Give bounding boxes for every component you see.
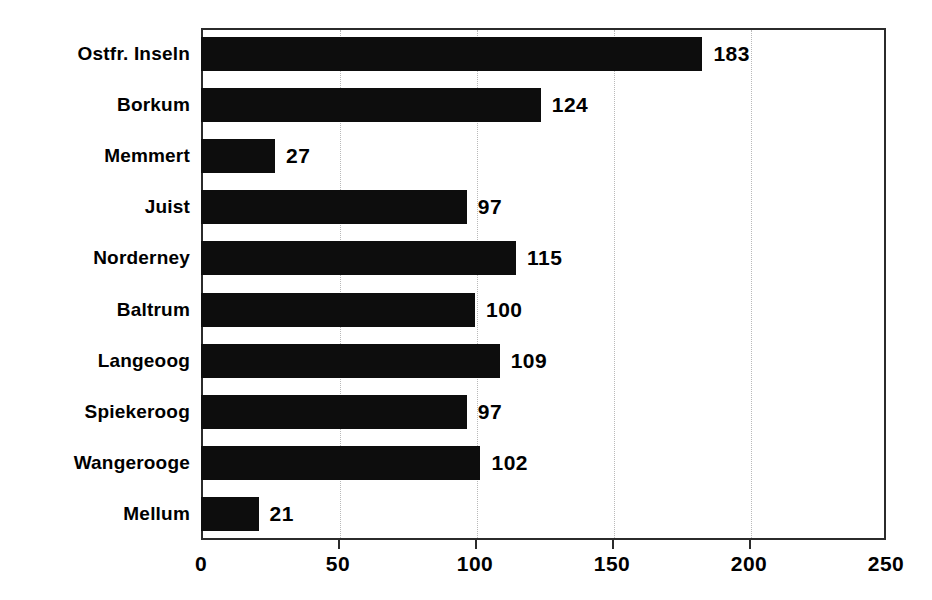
bar-value-label: 97 [478, 195, 502, 219]
category-label: Ostfr. Inseln [0, 37, 190, 71]
bar[interactable] [201, 395, 467, 429]
bar-row: 97 [201, 190, 886, 224]
bar-value-label: 115 [527, 246, 562, 270]
x-tick-mark-200 [749, 540, 751, 549]
bar-row: 21 [201, 497, 886, 531]
bar[interactable] [201, 190, 467, 224]
bar-row: 97 [201, 395, 886, 429]
x-tick-label: 100 [457, 552, 494, 576]
bar-row: 124 [201, 88, 886, 122]
bar-value-label: 102 [491, 451, 528, 475]
bar[interactable] [201, 88, 541, 122]
bar-value-label: 21 [270, 502, 294, 526]
x-tick-label: 150 [594, 552, 631, 576]
bar-row: 102 [201, 446, 886, 480]
bar-value-label: 100 [486, 298, 523, 322]
bar[interactable] [201, 139, 275, 173]
bar-row: 183 [201, 37, 886, 71]
category-label: Baltrum [0, 293, 190, 327]
bar-value-label: 183 [713, 42, 750, 66]
bar[interactable] [201, 344, 500, 378]
bar-chart: Ostfr. InselnBorkumMemmertJuistNorderney… [0, 0, 932, 600]
x-tick-label: 250 [868, 552, 905, 576]
x-tick-label: 50 [326, 552, 350, 576]
category-label: Langeoog [0, 344, 190, 378]
category-label: Spiekeroog [0, 395, 190, 429]
x-tick-mark-100 [475, 540, 477, 549]
x-tick-label: 200 [731, 552, 768, 576]
bar[interactable] [201, 293, 475, 327]
bar-value-label: 109 [511, 349, 548, 373]
category-label: Wangerooge [0, 446, 190, 480]
bar[interactable] [201, 37, 702, 71]
bar[interactable] [201, 241, 516, 275]
category-label: Juist [0, 190, 190, 224]
bars-layer: 18312427971151001099710221 [201, 28, 886, 540]
bar-value-label: 124 [552, 93, 589, 117]
x-tick-mark-50 [338, 540, 340, 549]
bar-row: 27 [201, 139, 886, 173]
category-axis-labels: Ostfr. InselnBorkumMemmertJuistNorderney… [0, 28, 190, 540]
category-label: Borkum [0, 88, 190, 122]
category-label: Mellum [0, 497, 190, 531]
bar-row: 109 [201, 344, 886, 378]
x-tick-mark-150 [612, 540, 614, 549]
bar-value-label: 27 [286, 144, 310, 168]
bar-row: 100 [201, 293, 886, 327]
bar[interactable] [201, 497, 259, 531]
x-tick-label: 0 [195, 552, 207, 576]
category-label: Memmert [0, 139, 190, 173]
bar[interactable] [201, 446, 480, 480]
bar-value-label: 97 [478, 400, 502, 424]
category-label: Norderney [0, 241, 190, 275]
bar-row: 115 [201, 241, 886, 275]
